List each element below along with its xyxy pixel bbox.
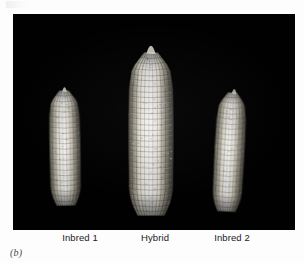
- specimen-label-hybrid: Hybrid: [141, 232, 169, 244]
- figure-page: { "figure": { "caption": "(b)", "plate":…: [0, 0, 304, 263]
- specimen-label-inbred-2: Inbred 2: [214, 232, 250, 244]
- photograph-plate: [13, 14, 295, 230]
- corn-cob-inbred-2: [205, 85, 255, 219]
- figure-caption: (b): [10, 247, 22, 258]
- corn-cob-inbred-1: [42, 84, 88, 213]
- specimen-label-inbred-1: Inbred 1: [62, 232, 98, 244]
- scan-artifact: [6, 1, 32, 8]
- corn-cob-hybrid: [122, 46, 180, 222]
- specimen-label-row: Inbred 1 Hybrid Inbred 2: [0, 232, 304, 246]
